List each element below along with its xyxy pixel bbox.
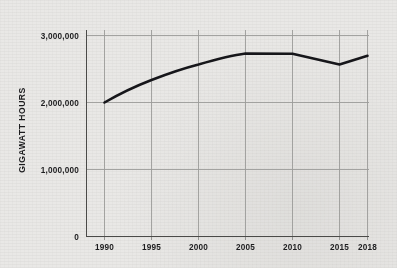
y-tick-label-2000000: 2,000,000 <box>41 99 79 108</box>
y-tick-label-3000000: 3,000,000 <box>41 32 79 41</box>
x-tick-label-2015: 2015 <box>330 243 349 252</box>
y-tick-label-0: 0 <box>74 233 79 242</box>
y-axis-title: GIGAWATT HOURS <box>17 87 27 173</box>
x-tick-label-1990: 1990 <box>95 243 114 252</box>
x-tick-labels: 1990 1995 2000 2005 2010 2015 2018 <box>95 243 377 252</box>
y-tick-labels: 3,000,000 2,000,000 1,000,000 0 <box>41 32 79 242</box>
line-chart: 3,000,000 2,000,000 1,000,000 0 1990 199… <box>0 0 397 268</box>
y-tick-label-1000000: 1,000,000 <box>41 166 79 175</box>
series-line-gigawatt-hours <box>105 54 368 103</box>
x-tick-label-2000: 2000 <box>189 243 208 252</box>
x-tick-label-2018: 2018 <box>358 243 377 252</box>
chart-canvas: 3,000,000 2,000,000 1,000,000 0 1990 199… <box>0 0 397 268</box>
x-tick-label-2005: 2005 <box>236 243 255 252</box>
x-tick-label-2010: 2010 <box>283 243 302 252</box>
x-tick-label-1995: 1995 <box>142 243 161 252</box>
